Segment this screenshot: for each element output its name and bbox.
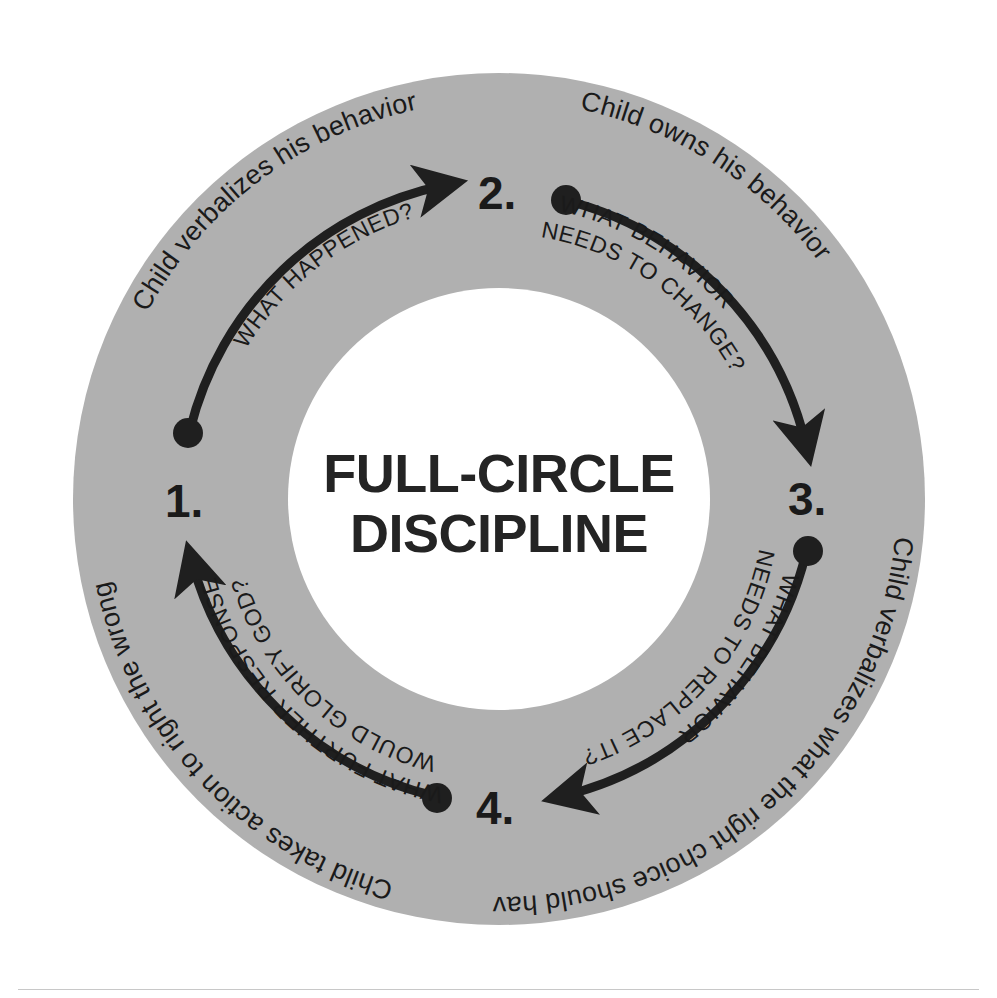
center-title-line-2: DISCIPLINE <box>350 503 648 563</box>
step-number-4: 4. <box>476 782 514 834</box>
diagram-canvas: Child verbalizes his behavior WHAT HAPPE… <box>0 0 997 998</box>
step-number-2: 2. <box>478 167 516 219</box>
step-number-3: 3. <box>788 473 826 525</box>
full-circle-discipline-diagram: Child verbalizes his behavior WHAT HAPPE… <box>0 0 997 998</box>
step-1-dot <box>173 418 203 448</box>
center-title-line-1: FULL-CIRCLE <box>323 443 674 503</box>
step-number-1: 1. <box>165 475 203 527</box>
footer-divider <box>18 989 979 990</box>
step-3-dot <box>793 536 823 566</box>
